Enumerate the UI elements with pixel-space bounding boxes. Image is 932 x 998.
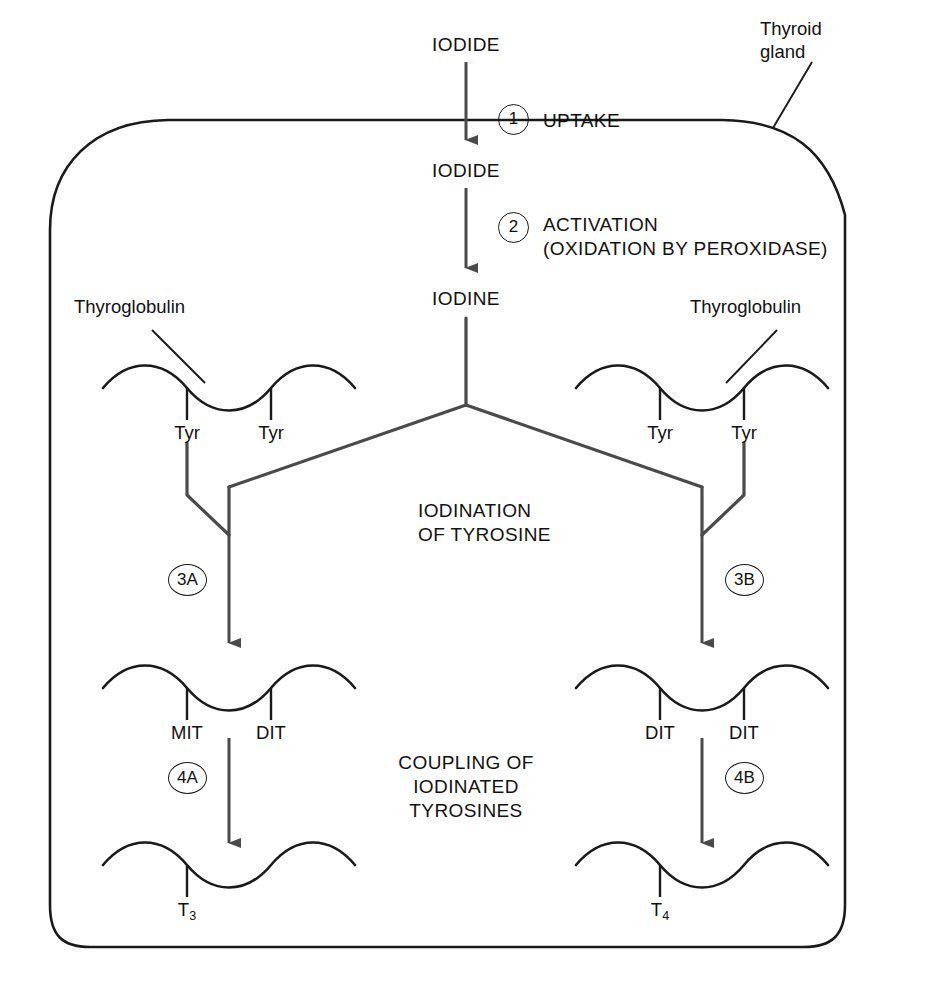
step-badge-4a: 4A xyxy=(168,762,207,794)
thyroid-gland-leader-line xyxy=(773,62,812,128)
residue-label-left-mid-2: DIT xyxy=(256,722,286,744)
residue-label-t4: T4 xyxy=(651,899,669,923)
residue-label-right-mid-1: DIT xyxy=(645,722,675,744)
t4-base: T xyxy=(651,899,662,920)
residue-label-right-mid-2: DIT xyxy=(729,722,759,744)
left-tyrosine-feed-line xyxy=(187,443,229,535)
residue-label-left-mid-1: MIT xyxy=(171,722,203,744)
label-iodination-line2: OF TYROSINE xyxy=(418,524,551,546)
step-badge-4b: 4B xyxy=(725,762,764,794)
label-step-1-uptake: UPTAKE xyxy=(543,110,620,132)
callout-thyroglobulin-left: Thyroglobulin xyxy=(74,296,185,318)
thyroid-pathway-illustration xyxy=(0,0,932,998)
thyroglobulin-chain-left-top xyxy=(103,330,355,420)
label-thyroid-gland-line2: gland xyxy=(760,41,805,63)
label-iodide-intracellular: IODIDE xyxy=(432,160,500,182)
thyroglobulin-chain-right-top xyxy=(576,330,828,420)
label-step-2-activation: ACTIVATION xyxy=(543,214,658,236)
thyroglobulin-chain-right-mid xyxy=(576,666,828,721)
thyroglobulin-chain-left-mid xyxy=(103,666,355,721)
residue-label-left-top-2: Tyr xyxy=(258,422,284,444)
label-iodine: IODINE xyxy=(432,288,500,310)
t3-subscript: 3 xyxy=(189,909,196,923)
label-thyroid-gland-line1: Thyroid xyxy=(760,18,822,40)
thyroglobulin-chain-left-bottom xyxy=(103,843,355,898)
callout-thyroglobulin-right: Thyroglobulin xyxy=(690,296,801,318)
label-coupling-line3: TYROSINES xyxy=(409,800,522,822)
step-badge-3a: 3A xyxy=(168,564,207,596)
residue-label-left-top-1: Tyr xyxy=(174,422,200,444)
label-step-2-activation-detail: (OXIDATION BY PEROXIDASE) xyxy=(543,238,828,260)
diagram-canvas: IODIDE Thyroid gland 1 UPTAKE IODIDE 2 A… xyxy=(0,0,932,998)
residue-label-t3: T3 xyxy=(178,899,196,923)
residue-label-right-top-1: Tyr xyxy=(647,422,673,444)
iodine-branch-lines xyxy=(229,318,702,487)
label-coupling-line2: IODINATED xyxy=(413,776,519,798)
right-tyrosine-feed-line xyxy=(702,443,744,535)
step-badge-1: 1 xyxy=(498,104,529,135)
label-iodide-extracellular: IODIDE xyxy=(432,34,500,56)
label-iodination-line1: IODINATION xyxy=(418,500,531,522)
t3-base: T xyxy=(178,899,189,920)
t4-subscript: 4 xyxy=(662,909,669,923)
thyroglobulin-chain-right-bottom xyxy=(576,843,828,898)
label-coupling-line1: COUPLING OF xyxy=(398,752,533,774)
step-badge-3b: 3B xyxy=(725,564,764,596)
step-badge-2: 2 xyxy=(498,212,529,243)
residue-label-right-top-2: Tyr xyxy=(731,422,757,444)
